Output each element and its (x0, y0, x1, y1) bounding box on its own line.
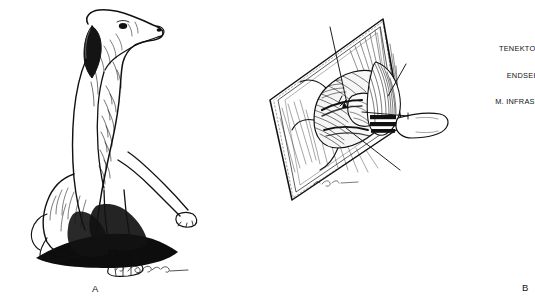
retractor-prong-2 (370, 122, 396, 126)
panel-b-surgical-illustration: TENEKTOMIE DER ENDSEHNE DES M. INFRASPIN… (230, 0, 535, 306)
dog-line-drawing (0, 0, 230, 306)
panel-caption-b: B (522, 282, 529, 293)
retractor-prong-3 (371, 129, 395, 133)
label-tenektomie-line-3: M. INFRASPINATUS (468, 98, 535, 107)
dog-chest-contour (97, 72, 104, 188)
panel-caption-a: A (92, 283, 99, 294)
panel-a-dog-illustration: A (0, 0, 230, 306)
label-tenektomie-line-2: ENDSEHNE DES (468, 72, 535, 81)
dog-ear (84, 26, 101, 78)
dog-brow (117, 21, 129, 23)
dog-raised-forelimb-upper (118, 160, 180, 216)
figure-root: A (0, 0, 535, 306)
label-tenektomie-infraspinatus: TENEKTOMIE DER ENDSEHNE DES M. INFRASPIN… (468, 27, 535, 125)
label-tenektomie-line-1: TENEKTOMIE DER (468, 45, 535, 54)
dog-eye (119, 23, 127, 29)
dog-jaw-line (105, 36, 161, 70)
dog-rear-back (73, 60, 87, 230)
dog-nostril (157, 28, 162, 32)
retractor-prong-1 (370, 115, 396, 119)
